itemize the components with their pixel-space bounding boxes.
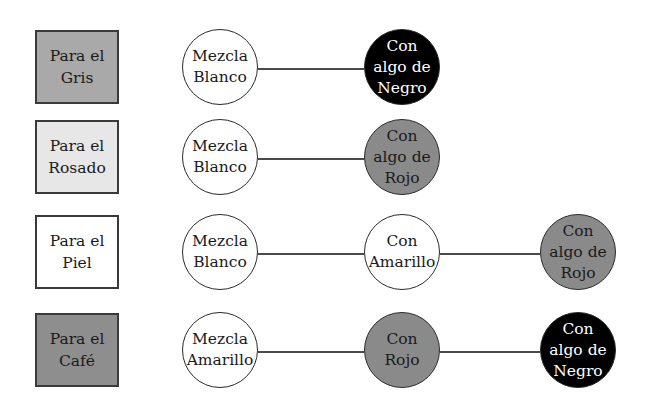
step-label: Con algo de Rojo (373, 126, 430, 189)
step-label: Mezcla Blanco (192, 231, 248, 273)
box-label: Para el Café (50, 328, 105, 372)
step-circle-rojo: Con algo de Rojo (364, 119, 440, 195)
row-gris: Para el Gris Mezcla Blanco Con algo de N… (0, 30, 649, 126)
connector-line (258, 158, 364, 160)
step-label: Mezcla Blanco (192, 46, 248, 88)
step-label: Con Amarillo (369, 231, 436, 273)
step-circle-mezcla-blanco: Mezcla Blanco (182, 214, 258, 290)
box-label: Para el Gris (50, 45, 105, 89)
row-cafe: Para el Café Mezcla Amarillo Con Rojo Co… (0, 313, 649, 409)
color-box-rosado: Para el Rosado (35, 120, 119, 194)
step-circle-mezcla-blanco: Mezcla Blanco (182, 119, 258, 195)
connector-line (258, 351, 364, 353)
connector-line (258, 68, 364, 70)
step-circle-negro: Con algo de Negro (540, 312, 616, 388)
step-circle-rojo: Con Rojo (364, 312, 440, 388)
row-piel: Para el Piel Mezcla Blanco Con Amarillo … (0, 215, 649, 311)
step-circle-mezcla-amarillo: Mezcla Amarillo (182, 312, 258, 388)
color-box-piel: Para el Piel (35, 215, 119, 289)
step-label: Mezcla Blanco (192, 136, 248, 178)
step-label: Con Rojo (384, 329, 419, 371)
connector-line (440, 351, 540, 353)
step-circle-negro: Con algo de Negro (364, 29, 440, 105)
step-circle-amarillo: Con Amarillo (364, 214, 440, 290)
row-rosado: Para el Rosado Mezcla Blanco Con algo de… (0, 120, 649, 216)
color-box-gris: Para el Gris (35, 30, 119, 104)
color-box-cafe: Para el Café (35, 313, 119, 387)
box-label: Para el Rosado (48, 135, 105, 179)
step-label: Con algo de Negro (549, 319, 606, 382)
box-label: Para el Piel (50, 230, 105, 274)
step-label: Con algo de Negro (373, 36, 430, 99)
connector-line (258, 253, 364, 255)
step-circle-mezcla-blanco: Mezcla Blanco (182, 29, 258, 105)
step-label: Mezcla Amarillo (187, 329, 254, 371)
step-circle-rojo: Con algo de Rojo (540, 214, 616, 290)
step-label: Con algo de Rojo (549, 221, 606, 284)
connector-line (440, 253, 540, 255)
